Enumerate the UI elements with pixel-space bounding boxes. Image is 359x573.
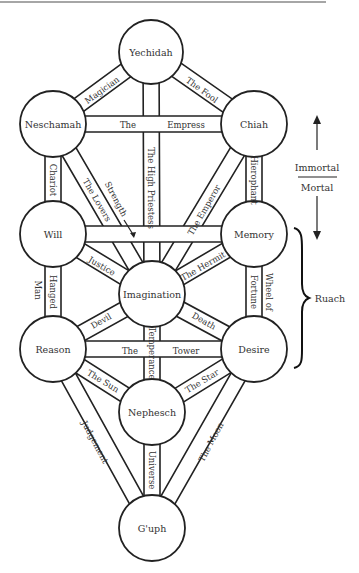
- path-label-temperance: Temperance: [147, 327, 157, 380]
- node-label-desire: Desire: [238, 344, 270, 355]
- path-label-hanged-man-line2: Man: [33, 280, 43, 300]
- path-label-hanged-man-line1: Hanged: [48, 275, 58, 309]
- ruach-brace: [294, 228, 309, 368]
- node-yechidah: Yechidah: [119, 20, 183, 84]
- node-label-memory: Memory: [234, 229, 275, 240]
- mortal-label: Mortal: [301, 182, 334, 193]
- path-label-empress-right: Empress: [167, 120, 205, 130]
- node-label-reason: Reason: [35, 344, 70, 355]
- path-label-universe: Universe: [147, 451, 157, 490]
- node-will: Will: [20, 201, 86, 267]
- node-chiah: Chiah: [221, 91, 287, 157]
- path-label-empress-left: The: [120, 120, 136, 130]
- tree-of-life-diagram: YechidahNeschamahChiahWillMemoryImaginat…: [0, 0, 359, 573]
- path-label-chariot: Chariot: [48, 164, 58, 197]
- node-label-nephesch: Nephesch: [128, 407, 176, 418]
- node-reason: Reason: [20, 316, 86, 382]
- mortal-down-arrow-icon: [313, 196, 321, 240]
- path-label-wheel-of-fortune-line2: Fortune: [249, 275, 259, 309]
- path-label-hierophant: Hierophant: [249, 155, 259, 205]
- path-label-tower-left: The: [122, 346, 138, 356]
- node-guph: G'uph: [119, 495, 185, 561]
- node-label-neschamah: Neschamah: [25, 119, 82, 130]
- node-nephesch: Nephesch: [119, 379, 185, 445]
- node-imagination: Imagination: [119, 261, 185, 327]
- path-label-high-priestess: The High Priestess: [146, 147, 156, 229]
- immortal-up-arrow-icon: [313, 115, 321, 150]
- node-label-yechidah: Yechidah: [128, 47, 172, 58]
- node-label-chiah: Chiah: [240, 119, 268, 130]
- node-label-will: Will: [44, 229, 63, 240]
- node-desire: Desire: [221, 316, 287, 382]
- node-memory: Memory: [221, 201, 287, 267]
- path-label-tower-right: Tower: [173, 346, 200, 356]
- immortal-label: Immortal: [295, 162, 340, 173]
- ruach-label: Ruach: [315, 293, 345, 304]
- node-label-imagination: Imagination: [123, 289, 181, 300]
- path-label-wheel-of-fortune-line1: Wheel of: [264, 273, 274, 312]
- node-neschamah: Neschamah: [20, 91, 86, 157]
- node-label-guph: G'uph: [138, 523, 167, 534]
